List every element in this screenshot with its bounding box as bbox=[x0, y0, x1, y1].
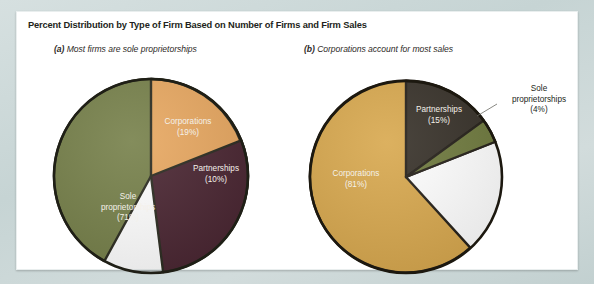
label-a-sole-name-line1: Sole bbox=[120, 192, 137, 201]
label-b-sole-name-line1: Sole bbox=[531, 84, 548, 93]
panel-b-tag: (b) bbox=[304, 44, 315, 54]
panel-a-subtitle: (a) Most firms are sole proprietorships bbox=[54, 44, 197, 54]
label-b-corporations-name: Corporations bbox=[333, 169, 380, 178]
leader-line-b-sole-proprietorships bbox=[477, 104, 497, 116]
label-b-sole-pct: (4%) bbox=[530, 105, 548, 114]
label-a-partnerships-pct: (10%) bbox=[205, 175, 227, 184]
label-a-corporations-pct: (19%) bbox=[177, 128, 199, 137]
panel-b-subtitle-text: Corporations account for most sales bbox=[317, 44, 453, 54]
figure-title: Percent Distribution by Type of Firm Bas… bbox=[28, 20, 367, 30]
label-a-sole-pct: (71%) bbox=[117, 213, 139, 222]
panel-a-tag: (a) bbox=[54, 44, 64, 54]
pie-chart-b: Partnerships (15%) Sole proprietorships … bbox=[294, 66, 576, 284]
label-b-partnerships-pct: (15%) bbox=[428, 116, 450, 125]
label-a-partnerships-name: Partnerships bbox=[193, 164, 239, 173]
label-b-sole-name-line2: proprietorships bbox=[512, 95, 566, 104]
panel-b-subtitle: (b) Corporations account for most sales bbox=[304, 44, 453, 54]
label-b-partnerships-name: Partnerships bbox=[416, 105, 462, 114]
figure-panel: Percent Distribution by Type of Firm Bas… bbox=[16, 11, 578, 270]
label-a-sole-name-line2: proprietorships bbox=[101, 203, 155, 212]
pie-chart-a: Corporations (19%) Partnerships (10%) So… bbox=[38, 66, 268, 284]
label-a-corporations-name: Corporations bbox=[165, 117, 212, 126]
panel-a-subtitle-text: Most firms are sole proprietorships bbox=[67, 44, 197, 54]
label-b-corporations-pct: (81%) bbox=[345, 180, 367, 189]
